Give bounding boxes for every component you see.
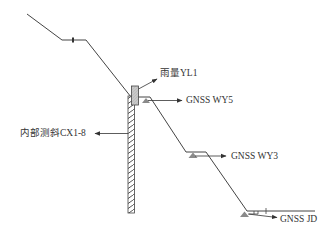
gnss-jd-arrow (248, 214, 277, 218)
inclinometer-label: 内部测斜CX1-8 (20, 129, 86, 139)
slope-diagram (0, 0, 334, 239)
rain-gauge-label: 雨量YL1 (160, 69, 197, 79)
gnss-wy3-marker-icon (189, 153, 198, 159)
gnss-jd-marker-icon (240, 212, 249, 218)
gnss-wy3-label: GNSS WY3 (231, 152, 278, 162)
inclinometer-column (128, 96, 135, 213)
crest-marker (72, 38, 74, 43)
gnss-jd-label: GNSS JD (280, 215, 317, 225)
slope-profile (27, 14, 315, 211)
rain-gauge-icon (132, 86, 139, 105)
rain-gauge-arrow (139, 79, 158, 89)
gnss-wy5-label: GNSS WY5 (186, 96, 233, 106)
